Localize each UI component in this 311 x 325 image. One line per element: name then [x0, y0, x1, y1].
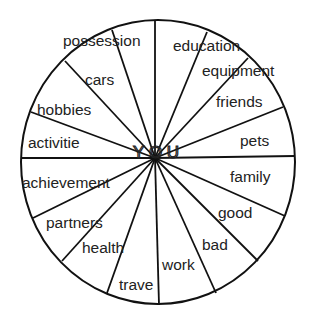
segment-label-education: education: [173, 37, 240, 54]
segment-label-partners: partners: [46, 214, 103, 231]
center-label: YOU: [133, 143, 179, 162]
segment-label-work: work: [161, 256, 195, 273]
segment-label-achievement: achievement: [22, 174, 111, 191]
segment-label-trave: trave: [119, 276, 153, 293]
segment-label-health: health: [82, 239, 124, 256]
wheel-labels: possessioneducationequipmentfriendspetsf…: [22, 32, 275, 293]
segment-label-possession: possession: [63, 32, 141, 49]
segment-label-good: good: [218, 204, 252, 221]
segment-label-activitie: activitie: [28, 134, 80, 151]
segment-label-family: family: [230, 168, 271, 185]
segment-label-friends: friends: [216, 93, 263, 110]
life-wheel-diagram: possessioneducationequipmentfriendspetsf…: [0, 0, 311, 325]
segment-label-bad: bad: [202, 236, 228, 253]
segment-label-cars: cars: [85, 71, 115, 88]
segment-label-pets: pets: [240, 132, 270, 149]
segment-label-equipment: equipment: [202, 62, 275, 79]
spoke-line: [112, 30, 155, 158]
segment-label-hobbies: hobbies: [37, 101, 92, 118]
spoke-line: [155, 158, 159, 305]
